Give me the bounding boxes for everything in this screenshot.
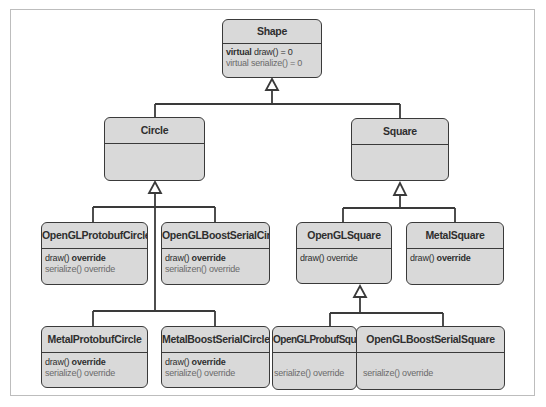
class-members: draw() override serializen() override (162, 249, 269, 275)
class-name: OpenGLSquare (297, 223, 391, 249)
class-name: Shape (223, 20, 321, 44)
member-draw: draw() override (45, 357, 144, 368)
class-opengl-square: OpenGLSquare draw() override (296, 222, 392, 284)
class-name: MetalBoostSerialCircle (162, 327, 269, 353)
class-members: serialize() override (273, 353, 356, 379)
class-name: OpenGLBoostSerialCircle (162, 223, 269, 249)
class-opengl-boost-serial-circle: OpenGLBoostSerialCircle draw() override … (161, 222, 270, 285)
class-members: draw() override (297, 249, 391, 264)
class-members: draw() override serialize() override (42, 249, 147, 275)
class-name: OpenGLProbufSquare (273, 327, 356, 353)
member-serialize: virtual serialize() = 0 (226, 58, 318, 69)
class-members: draw() override serialize() override (42, 353, 147, 379)
class-members: virtual draw() = 0 virtual serialize() =… (223, 44, 321, 69)
class-opengl-probuf-square: OpenGLProbufSquare serialize() override (272, 326, 357, 390)
member-serialize: serialize() override (45, 368, 144, 379)
member-draw: draw() override (165, 357, 266, 368)
class-metal-square: MetalSquare draw() override (406, 222, 504, 285)
class-name: Circle (105, 118, 204, 144)
class-square: Square (351, 118, 449, 181)
class-opengl-protobuf-circle: OpenGLProtobufCircle draw() override ser… (41, 222, 148, 285)
shape-generalization-arrow (266, 79, 278, 90)
member-serialize: serialize() override (363, 368, 501, 379)
class-name: MetalProtobufCircle (42, 327, 147, 353)
member-draw: draw() override (165, 253, 266, 264)
member-serialize: serializen() override (165, 264, 266, 275)
class-name: OpenGLBoostSerialSquare (357, 327, 504, 353)
class-circle: Circle (104, 117, 205, 181)
class-members: draw() override (407, 249, 503, 264)
member-serialize: serialize() override (274, 368, 353, 379)
class-name: OpenGLProtobufCircle (42, 223, 147, 249)
member-serialize: serialize() override (165, 368, 266, 379)
square-generalization-arrow (394, 183, 406, 195)
member-serialize: serialize() override (45, 264, 144, 275)
class-metal-protobuf-circle: MetalProtobufCircle draw() override seri… (41, 326, 148, 388)
class-members: serialize() override (357, 353, 504, 379)
class-shape: Shape virtual draw() = 0 virtual seriali… (222, 19, 322, 78)
class-name: MetalSquare (407, 223, 503, 249)
class-members: draw() override serialize() override (162, 353, 269, 379)
member-draw: virtual draw() = 0 (226, 47, 318, 58)
class-metal-boost-serial-circle: MetalBoostSerialCircle draw() override s… (161, 326, 270, 388)
member-draw: draw() override (410, 253, 500, 264)
class-name: Square (352, 119, 448, 145)
class-opengl-boost-serial-square: OpenGLBoostSerialSquare serialize() over… (356, 326, 505, 390)
member-draw: draw() override (45, 253, 144, 264)
circle-generalization-arrow (149, 182, 161, 193)
openglsquare-generalization-arrow (354, 286, 366, 297)
member-draw: draw() override (300, 253, 388, 264)
